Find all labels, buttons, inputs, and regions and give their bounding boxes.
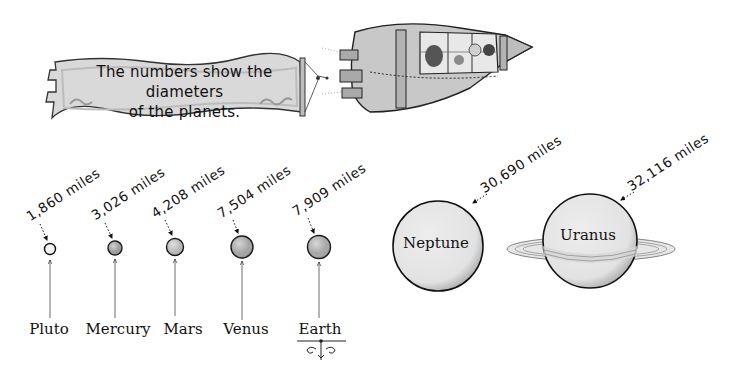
planet-name-mars: Mars: [163, 320, 202, 338]
planet-venus: [231, 236, 253, 258]
planet-earth: [308, 236, 331, 259]
earth-ornament-icon: [297, 339, 346, 360]
planet-name-venus: Venus: [223, 320, 268, 338]
planet-name-earth: Earth: [299, 320, 342, 338]
planet-name-pluto: Pluto: [29, 320, 69, 338]
banner-caption: The numbers show the diameters of the pl…: [72, 62, 297, 122]
planet-mercury: [108, 241, 122, 255]
planet-mars: [167, 239, 184, 256]
planet-pluto: [45, 244, 56, 255]
rocket-illustration: [322, 24, 532, 112]
planet-name-uranus: Uranus: [560, 226, 616, 244]
banner-line-2: of the planets.: [72, 102, 297, 122]
planet-name-neptune: Neptune: [403, 234, 469, 252]
banner-line-1: The numbers show the diameters: [72, 62, 297, 102]
planet-name-mercury: Mercury: [85, 320, 150, 338]
